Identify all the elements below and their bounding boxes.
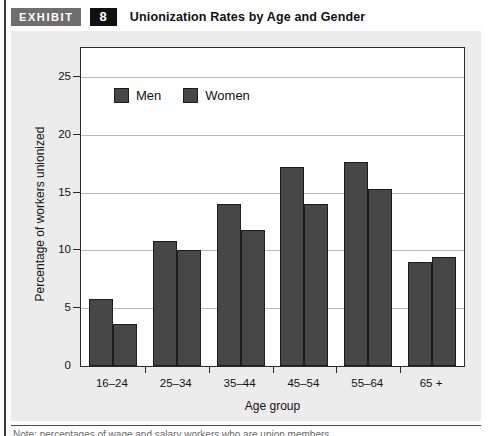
legend-swatch-men xyxy=(114,88,129,103)
chart-plate: Percentage of workers unionized 05101520… xyxy=(11,31,481,421)
x-axis-title: Age group xyxy=(80,399,465,413)
exhibit-figure: EXHIBIT 8 Unionization Rates by Age and … xyxy=(0,0,489,436)
legend-swatch-women xyxy=(183,88,198,103)
x-tick-mark xyxy=(273,366,274,373)
x-tick-mark xyxy=(209,366,210,373)
x-tick-label: 16–24 xyxy=(96,377,128,389)
exhibit-tag-label: EXHIBIT xyxy=(11,8,81,26)
clipped-caption: Note: percentages of wage and salary wor… xyxy=(13,429,453,436)
plot-area: Men Women xyxy=(80,47,465,367)
y-tick-label: 25 xyxy=(45,70,71,82)
legend-label-women: Women xyxy=(205,88,250,103)
exhibit-header: EXHIBIT 8 Unionization Rates by Age and … xyxy=(11,6,481,28)
legend-item-men: Men xyxy=(114,88,161,103)
y-tick-label: 0 xyxy=(45,359,71,371)
x-tick-label: 45–54 xyxy=(287,377,319,389)
left-margin-rule xyxy=(4,0,6,436)
y-tick-label: 20 xyxy=(45,128,71,140)
y-tick-mark xyxy=(73,192,80,193)
x-tick-label: 65 + xyxy=(420,377,443,389)
y-tick-label: 15 xyxy=(45,186,71,198)
exhibit-number-badge: 8 xyxy=(90,8,117,26)
y-tick-label: 5 xyxy=(45,301,71,313)
x-tick-label: 35–44 xyxy=(224,377,256,389)
legend-item-women: Women xyxy=(183,88,250,103)
x-tick-mark xyxy=(336,366,337,373)
y-tick-mark xyxy=(73,134,80,135)
y-tick-label: 10 xyxy=(45,243,71,255)
y-tick-mark xyxy=(73,307,80,308)
x-tick-label: 25–34 xyxy=(160,377,192,389)
bottom-rule xyxy=(11,425,481,426)
y-tick-mark xyxy=(73,249,80,250)
legend-label-men: Men xyxy=(136,88,161,103)
x-tick-mark xyxy=(400,366,401,373)
x-tick-mark xyxy=(145,366,146,373)
exhibit-title: Unionization Rates by Age and Gender xyxy=(130,10,366,24)
chart-legend: Men Women xyxy=(114,88,272,103)
y-tick-mark xyxy=(73,76,80,77)
x-tick-label: 55–64 xyxy=(351,377,383,389)
